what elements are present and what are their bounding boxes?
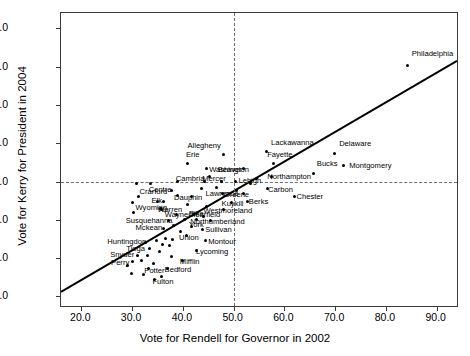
data-point-label: Montour <box>208 238 236 246</box>
data-point-label: Lycoming <box>196 248 228 256</box>
data-point-label: Lackawanna <box>271 139 314 147</box>
y-tick-label: 70.0 <box>0 99 8 110</box>
x-tick-label: 50.0 <box>211 312 255 323</box>
y-tick <box>56 220 61 221</box>
y-tick <box>56 105 61 106</box>
x-axis-title: Vote for Rendell for Governor in 2002 <box>0 332 470 344</box>
x-tick-label: 30.0 <box>109 312 153 323</box>
data-point <box>131 260 134 263</box>
data-point <box>205 167 208 170</box>
plot-area: PhiladelphiaDelawareMontgomeryBucksLacka… <box>60 12 458 307</box>
data-point <box>406 64 409 67</box>
data-point-label: Chester <box>297 193 324 201</box>
scatter-chart: Vote for Kerry for President in 2004 Phi… <box>0 0 470 356</box>
data-point-label: Lawrence <box>205 190 238 198</box>
data-point-label: Erie <box>186 151 200 159</box>
data-point-label: Sullivan <box>205 226 232 234</box>
data-point <box>126 264 129 267</box>
y-tick <box>56 143 61 144</box>
data-point-label: Northampton <box>267 173 311 181</box>
y-tick <box>56 296 61 297</box>
data-point-label: Bucks <box>317 160 338 168</box>
y-tick-label: 80.0 <box>0 61 8 72</box>
data-point <box>140 259 143 262</box>
x-tick-label: 70.0 <box>312 312 356 323</box>
reference-line-vertical <box>234 13 235 306</box>
data-point <box>162 227 165 230</box>
y-tick-label: 60.0 <box>0 137 8 148</box>
y-tick-label: 90.0 <box>0 22 8 33</box>
data-point <box>208 175 211 178</box>
data-point <box>342 164 345 167</box>
y-axis-title: Vote for Kerry for President in 2004 <box>16 31 28 281</box>
data-point-label: Cambria <box>176 175 205 183</box>
data-point <box>201 228 204 231</box>
data-point <box>333 152 336 155</box>
data-point <box>156 200 159 203</box>
data-point-label: Bedford <box>165 266 192 274</box>
data-point-label: Beaver <box>218 166 242 174</box>
data-point-label: Philadelphia <box>412 50 453 58</box>
x-tick-label: 90.0 <box>414 312 458 323</box>
y-tick <box>56 28 61 29</box>
y-tick-label: 20.0 <box>0 290 8 301</box>
data-point-label: Crarford <box>139 188 167 196</box>
y-tick <box>56 67 61 68</box>
data-point-label: Montgomery <box>349 162 391 170</box>
data-point <box>136 254 139 257</box>
data-point-label: Delaware <box>339 140 371 148</box>
data-point <box>155 239 158 242</box>
data-point <box>131 201 134 204</box>
data-point <box>152 262 155 265</box>
data-point-label: Union <box>179 234 199 242</box>
data-point-label: Fulton <box>152 278 173 286</box>
y-tick <box>56 258 61 259</box>
data-point <box>195 218 198 221</box>
data-point-label: Potter <box>144 267 164 275</box>
data-point <box>204 239 207 242</box>
data-point-label: Allegheny <box>187 142 220 150</box>
x-tick-label: 20.0 <box>58 312 102 323</box>
y-tick-label: 50.0 <box>0 176 8 187</box>
data-point-label: Pike <box>189 210 204 218</box>
data-point-label: Wyoming <box>136 204 168 212</box>
data-point <box>137 195 140 198</box>
data-point <box>200 187 203 190</box>
data-point <box>162 200 165 203</box>
data-point <box>161 243 164 246</box>
data-point <box>160 275 163 278</box>
data-point-label: Carbon <box>268 186 293 194</box>
x-tick-label: 60.0 <box>261 312 305 323</box>
data-point <box>148 247 151 250</box>
data-point <box>149 182 152 185</box>
data-point-label: Fayette <box>267 151 292 159</box>
x-tick-label: 80.0 <box>363 312 407 323</box>
data-point-label: Mckean <box>136 224 163 232</box>
data-point <box>130 272 133 275</box>
x-tick-label: 40.0 <box>160 312 204 323</box>
y-tick-label: 30.0 <box>0 252 8 263</box>
data-point <box>164 237 167 240</box>
data-point <box>220 180 223 183</box>
y-tick-label: 40.0 <box>0 214 8 225</box>
data-point <box>215 186 218 189</box>
